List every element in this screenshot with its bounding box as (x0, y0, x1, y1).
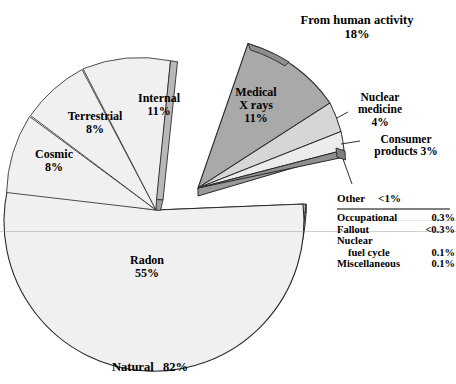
breakdown-name-miscellaneous: Miscellaneous (337, 258, 400, 270)
label-consumer-products-name2: products 3% (374, 145, 437, 157)
breakdown-value-fallout: <0.3% (425, 224, 455, 236)
breakdown-name-occupational: Occupational (337, 212, 397, 224)
label-medical-xrays-name2: X rays (239, 98, 273, 112)
label-other-name: Other (337, 192, 365, 204)
label-from-human-activity-pct: 18% (345, 27, 370, 41)
label-cosmic-pct: 8% (45, 160, 63, 174)
label-nuclear-medicine-pct: 4% (371, 116, 388, 128)
breakdown-name-fuel-cycle: fuel cycle (337, 247, 390, 259)
label-cosmic-name: Cosmic (35, 147, 73, 161)
label-natural-pct: 82% (163, 360, 188, 374)
breakdown-value-miscellaneous: 0.1% (431, 258, 455, 270)
breakdown-row-nuclear: Nuclear (337, 235, 455, 247)
other-breakdown-list: Occupational 0.3% Fallout <0.3% Nuclear … (337, 212, 455, 270)
breakdown-value-fuel-cycle: 0.1% (431, 247, 455, 259)
label-radon-pct: 55% (135, 266, 159, 280)
breakdown-row-fuel-cycle: fuel cycle 0.1% (337, 247, 455, 259)
slice-radon[interactable] (4, 189, 304, 371)
label-nuclear-medicine: Nuclear medicine 4% (343, 91, 417, 128)
label-internal-name: Internal (138, 91, 180, 105)
label-terrestrial-name: Terrestrial (68, 109, 123, 123)
pie-chart-figure: From human activity 18% Internal 11% Ter… (0, 0, 456, 384)
breakdown-value-occupational: 0.3% (431, 212, 455, 224)
label-medical-xrays: Medical X rays 11% (219, 86, 293, 125)
label-terrestrial: Terrestrial 8% (52, 110, 138, 136)
label-cosmic: Cosmic 8% (21, 148, 87, 174)
label-natural-name: Natural (112, 360, 154, 374)
breakdown-row-occupational: Occupational 0.3% (337, 212, 455, 224)
label-other-row: Other<1% (337, 192, 401, 204)
label-natural: Natural 82% (78, 361, 222, 375)
breakdown-row-fallout: Fallout <0.3% (337, 224, 455, 236)
label-consumer-products-name1: Consumer (380, 133, 431, 145)
leader-other (343, 159, 352, 184)
label-radon: Radon 55% (110, 254, 184, 280)
breakdown-row-miscellaneous: Miscellaneous 0.1% (337, 258, 455, 270)
label-from-human-activity-name: From human activity (301, 13, 414, 27)
label-terrestrial-pct: 8% (86, 122, 104, 136)
label-from-human-activity: From human activity 18% (281, 14, 433, 41)
breakdown-name-fallout: Fallout (337, 224, 369, 236)
label-medical-xrays-pct: 11% (244, 111, 267, 125)
label-internal-pct: 11% (147, 104, 170, 118)
label-radon-name: Radon (130, 253, 164, 267)
breakdown-name-nuclear: Nuclear (337, 235, 373, 247)
label-other-pct: <1% (378, 192, 401, 204)
label-medical-xrays-name1: Medical (235, 85, 276, 99)
label-nuclear-medicine-name1: Nuclear (361, 91, 400, 103)
label-nuclear-medicine-name2: medicine (358, 103, 402, 115)
label-consumer-products: Consumer products 3% (358, 133, 454, 158)
